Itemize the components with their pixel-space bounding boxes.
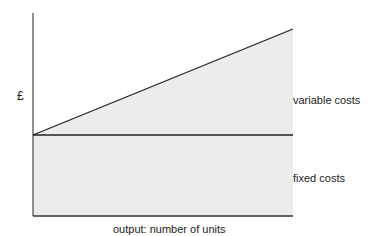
x-axis-label: output: number of units <box>113 224 226 235</box>
fixed-costs-label: fixed costs <box>293 173 345 184</box>
y-axis-label: £ <box>17 90 24 102</box>
variable-costs-label: variable costs <box>293 95 360 106</box>
shaded-cost-area <box>33 29 293 216</box>
cost-diagram <box>0 0 381 236</box>
